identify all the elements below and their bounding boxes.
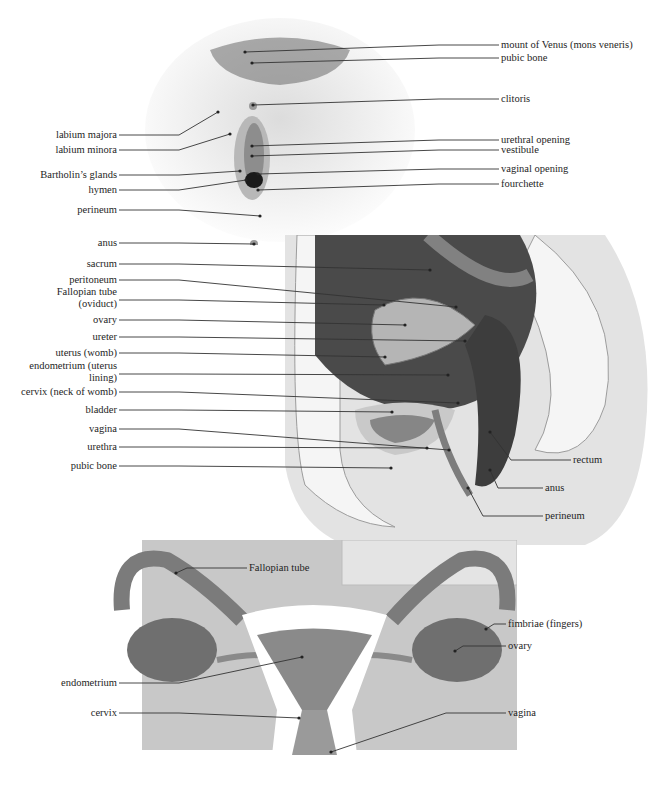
label-vestibule: vestibule	[501, 144, 539, 156]
label-pubic-bone-sag: pubic bone	[71, 460, 117, 472]
label-anus-ext: anus	[98, 237, 117, 249]
label-fallopian-oviduct: Fallopian tube (oviduct)	[22, 286, 117, 310]
label-vagina-sag: vagina	[89, 423, 117, 435]
label-perineum-ext: perineum	[77, 204, 117, 216]
label-cervix-front: cervix	[91, 707, 117, 719]
label-endometrium-sag: endometrium (uterus lining)	[22, 360, 117, 384]
label-fourchette: fourchette	[501, 178, 544, 190]
label-fimbriae: fimbriae (fingers)	[508, 618, 582, 630]
external-view-figure	[140, 10, 420, 245]
label-uterus: uterus (womb)	[55, 347, 117, 359]
label-bladder: bladder	[86, 404, 118, 416]
label-ovary-sag: ovary	[93, 314, 117, 326]
label-vaginal-opening: vaginal opening	[501, 163, 568, 175]
label-fallopian-front: Fallopian tube	[249, 562, 309, 574]
label-bartholin: Bartholin’s glands	[40, 169, 117, 181]
label-clitoris: clitoris	[501, 93, 530, 105]
label-labium-minora: labium minora	[55, 144, 117, 156]
sagittal-section-figure	[285, 235, 658, 545]
label-hymen: hymen	[88, 184, 117, 196]
frontal-section-figure	[112, 540, 517, 755]
label-anus-sag: anus	[545, 482, 564, 494]
label-urethra: urethra	[87, 441, 117, 453]
label-rectum: rectum	[573, 454, 602, 466]
label-labium-majora: labium majora	[56, 129, 117, 141]
label-sacrum: sacrum	[87, 258, 117, 270]
label-pubic-bone-ext: pubic bone	[501, 52, 547, 64]
label-endometrium-front: endometrium	[61, 677, 117, 689]
label-mons: mount of Venus (mons veneris)	[501, 39, 633, 51]
label-ovary-front: ovary	[508, 640, 532, 652]
label-perineum-sag: perineum	[545, 510, 585, 522]
label-vagina-front: vagina	[508, 707, 536, 719]
label-cervix-sag: cervix (neck of womb)	[21, 386, 117, 398]
label-peritoneum: peritoneum	[69, 274, 117, 286]
label-ureter: ureter	[93, 331, 117, 343]
